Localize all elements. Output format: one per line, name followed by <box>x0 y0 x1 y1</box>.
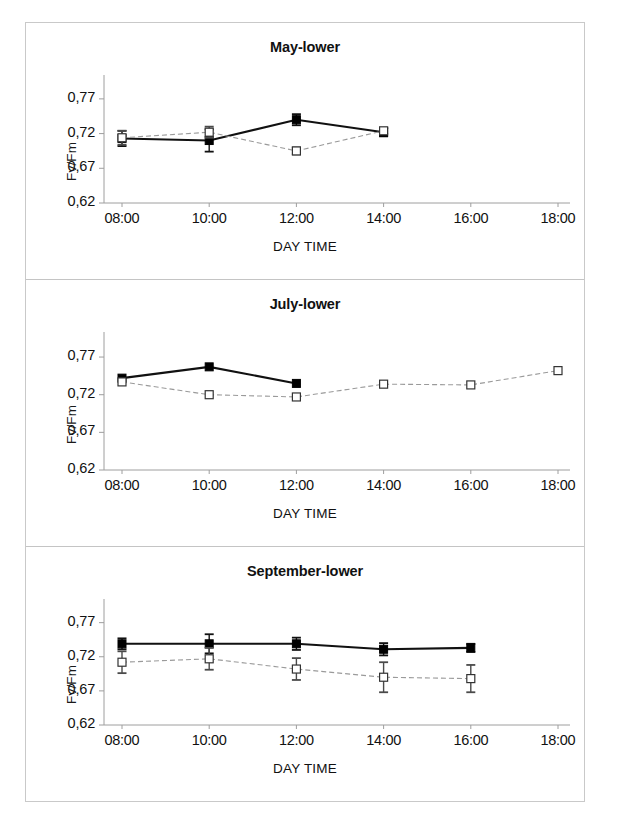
series-line-filled <box>122 120 384 141</box>
x-axis-tick-label: 10:00 <box>169 210 249 226</box>
series-line-open <box>122 131 384 151</box>
y-axis-tick-label: 0,77 <box>68 89 95 105</box>
y-axis-tick-label: 0,72 <box>68 124 95 140</box>
data-point-filled <box>292 379 300 387</box>
data-point-open <box>205 128 213 136</box>
y-axis-tick-label: 0,62 <box>68 460 95 476</box>
data-point-open <box>467 381 475 389</box>
data-point-open <box>380 380 388 388</box>
x-axis-title: DAY TIME <box>26 506 584 521</box>
x-axis-tick-label: 10:00 <box>169 732 249 748</box>
data-point-filled <box>467 644 475 652</box>
plot-area: 0,620,670,720,7708:0010:0012:0014:0016:0… <box>26 23 584 279</box>
x-axis-tick-label: 08:00 <box>82 732 162 748</box>
x-axis-tick-label: 16:00 <box>431 477 511 493</box>
x-axis-tick-label: 18:00 <box>518 477 598 493</box>
x-axis-tick-label: 12:00 <box>256 477 336 493</box>
plot-area: 0,620,670,720,7708:0010:0012:0014:0016:0… <box>26 280 584 546</box>
x-axis-tick-label: 12:00 <box>256 732 336 748</box>
data-point-open <box>118 378 126 386</box>
x-axis-tick-label: 10:00 <box>169 477 249 493</box>
data-point-open <box>380 673 388 681</box>
chart-panel-september: September-lower 0,620,670,720,7708:0010:… <box>26 546 584 801</box>
x-axis-tick-label: 16:00 <box>431 732 511 748</box>
y-axis-tick-label: 0,62 <box>68 193 95 209</box>
x-axis-title: DAY TIME <box>26 239 584 254</box>
x-axis-tick-label: 14:00 <box>344 477 424 493</box>
chart-panel-july: July-lower 0,620,670,720,7708:0010:0012:… <box>26 279 584 546</box>
y-axis-title: Fv/Fm <box>64 404 79 443</box>
x-axis-title: DAY TIME <box>26 761 584 776</box>
x-axis-tick-label: 12:00 <box>256 210 336 226</box>
x-axis-tick-label: 16:00 <box>431 210 511 226</box>
figure-frame: May-lower 0,620,670,720,7708:0010:0012:0… <box>25 22 585 802</box>
x-axis-tick-label: 18:00 <box>518 732 598 748</box>
x-axis-tick-label: 08:00 <box>82 210 162 226</box>
data-point-filled <box>292 640 300 648</box>
data-point-open <box>292 393 300 401</box>
data-point-open <box>380 127 388 135</box>
chart-panel-may: May-lower 0,620,670,720,7708:0010:0012:0… <box>26 23 584 279</box>
y-axis-title: Fv/Fm <box>64 665 79 704</box>
data-point-filled <box>380 645 388 653</box>
x-axis-tick-label: 14:00 <box>344 210 424 226</box>
y-axis-tick-label: 0,72 <box>68 647 95 663</box>
plot-area: 0,620,670,720,7708:0010:0012:0014:0016:0… <box>26 547 584 801</box>
x-axis-tick-label: 18:00 <box>518 210 598 226</box>
data-point-open <box>118 658 126 666</box>
data-point-open <box>205 391 213 399</box>
x-axis-tick-label: 08:00 <box>82 477 162 493</box>
x-axis-tick-label: 14:00 <box>344 732 424 748</box>
data-point-open <box>292 147 300 155</box>
y-axis-tick-label: 0,72 <box>68 385 95 401</box>
data-point-open <box>292 665 300 673</box>
data-point-open <box>467 675 475 683</box>
data-point-open <box>118 134 126 142</box>
data-point-open <box>554 367 562 375</box>
data-point-open <box>205 655 213 663</box>
data-point-filled <box>292 116 300 124</box>
y-axis-tick-label: 0,77 <box>68 347 95 363</box>
series-line-open <box>122 371 558 397</box>
y-axis-title: Fv/Fm <box>64 142 79 181</box>
y-axis-tick-label: 0,62 <box>68 715 95 731</box>
data-point-filled <box>205 640 213 648</box>
y-axis-tick-label: 0,77 <box>68 613 95 629</box>
data-point-filled <box>118 640 126 648</box>
data-point-filled <box>205 363 213 371</box>
